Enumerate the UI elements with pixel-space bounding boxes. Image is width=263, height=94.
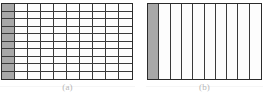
grid-cell bbox=[80, 57, 93, 65]
grid-cell bbox=[41, 27, 54, 35]
grid-cell-shaded bbox=[2, 57, 15, 65]
grid-cell bbox=[41, 34, 54, 42]
grid-cell bbox=[54, 72, 67, 80]
grid-cell bbox=[93, 72, 106, 80]
grid-cell bbox=[41, 4, 54, 12]
grid-cell bbox=[106, 19, 119, 27]
grid-cell bbox=[119, 72, 132, 80]
grid-cell bbox=[106, 57, 119, 65]
grid-cell bbox=[80, 27, 93, 35]
grid-cell bbox=[15, 4, 28, 12]
panel-a-grid-10x10: (a) bbox=[0, 0, 135, 94]
grid-cell bbox=[28, 64, 41, 72]
grid-strip bbox=[238, 4, 249, 79]
grid-cell bbox=[106, 49, 119, 57]
grid-cell bbox=[106, 42, 119, 50]
grid-cell bbox=[41, 57, 54, 65]
panel-b-strip-layer bbox=[148, 4, 261, 79]
grid-cell bbox=[28, 4, 41, 12]
grid-cell bbox=[80, 42, 93, 50]
grid-cell bbox=[93, 42, 106, 50]
grid-cell bbox=[67, 34, 80, 42]
grid-cell bbox=[106, 34, 119, 42]
grid-cell bbox=[28, 57, 41, 65]
panel-b-rectangle-frame bbox=[147, 3, 262, 80]
grid-cell bbox=[106, 72, 119, 80]
grid-strip bbox=[171, 4, 182, 79]
panel-b-caption: (b) bbox=[146, 82, 263, 92]
grid-cell-shaded bbox=[2, 49, 15, 57]
grid-cell bbox=[80, 19, 93, 27]
grid-cell bbox=[93, 4, 106, 12]
grid-cell bbox=[67, 72, 80, 80]
grid-cell-shaded bbox=[2, 4, 15, 12]
grid-cell bbox=[67, 57, 80, 65]
grid-cell bbox=[93, 12, 106, 20]
grid-cell bbox=[80, 64, 93, 72]
grid-cell bbox=[54, 42, 67, 50]
grid-cell bbox=[119, 4, 132, 12]
grid-cell bbox=[15, 64, 28, 72]
grid-cell bbox=[67, 42, 80, 50]
grid-cell bbox=[54, 49, 67, 57]
grid-cell bbox=[15, 42, 28, 50]
grid-cell bbox=[67, 19, 80, 27]
grid-cell bbox=[15, 34, 28, 42]
panel-b-grid-10x1: (b) bbox=[146, 0, 263, 94]
grid-cell bbox=[106, 12, 119, 20]
grid-cell bbox=[119, 42, 132, 50]
grid-cell bbox=[80, 4, 93, 12]
grid-cell bbox=[106, 64, 119, 72]
grid-cell-shaded bbox=[2, 27, 15, 35]
scan-artifact-b bbox=[146, 86, 263, 87]
panel-a-caption: (a) bbox=[0, 82, 135, 92]
grid-cell bbox=[54, 19, 67, 27]
grid-cell bbox=[93, 19, 106, 27]
grid-cell-shaded bbox=[2, 34, 15, 42]
grid-cell-shaded bbox=[2, 42, 15, 50]
grid-cell bbox=[41, 42, 54, 50]
grid-cell bbox=[93, 27, 106, 35]
grid-cell bbox=[15, 72, 28, 80]
grid-cell bbox=[93, 49, 106, 57]
grid-cell bbox=[67, 64, 80, 72]
grid-cell bbox=[119, 34, 132, 42]
grid-cell bbox=[41, 19, 54, 27]
grid-cell bbox=[28, 49, 41, 57]
grid-cell bbox=[28, 27, 41, 35]
grid-cell bbox=[106, 4, 119, 12]
grid-cell bbox=[41, 49, 54, 57]
grid-cell bbox=[119, 19, 132, 27]
grid-cell bbox=[106, 27, 119, 35]
grid-cell bbox=[28, 34, 41, 42]
grid-cell bbox=[67, 4, 80, 12]
grid-cell bbox=[93, 64, 106, 72]
grid-cell bbox=[54, 4, 67, 12]
scan-artifact-a bbox=[0, 86, 135, 87]
grid-cell-shaded bbox=[2, 12, 15, 20]
grid-cell bbox=[119, 27, 132, 35]
grid-cell bbox=[15, 19, 28, 27]
grid-cell-shaded bbox=[2, 72, 15, 80]
grid-cell bbox=[54, 34, 67, 42]
panel-a-cell-layer bbox=[2, 4, 132, 79]
grid-cell bbox=[80, 34, 93, 42]
grid-strip bbox=[250, 4, 261, 79]
grid-strip bbox=[159, 4, 170, 79]
grid-cell bbox=[15, 12, 28, 20]
grid-cell bbox=[93, 57, 106, 65]
grid-cell bbox=[15, 49, 28, 57]
panel-a-rectangle-frame bbox=[1, 3, 133, 80]
grid-cell bbox=[28, 42, 41, 50]
grid-cell bbox=[80, 49, 93, 57]
grid-cell bbox=[93, 34, 106, 42]
grid-cell bbox=[54, 57, 67, 65]
grid-cell bbox=[67, 27, 80, 35]
grid-cell bbox=[80, 72, 93, 80]
grid-cell bbox=[119, 12, 132, 20]
grid-cell bbox=[67, 49, 80, 57]
grid-cell bbox=[15, 27, 28, 35]
grid-cell bbox=[28, 19, 41, 27]
grid-cell bbox=[54, 27, 67, 35]
grid-cell-shaded bbox=[2, 64, 15, 72]
